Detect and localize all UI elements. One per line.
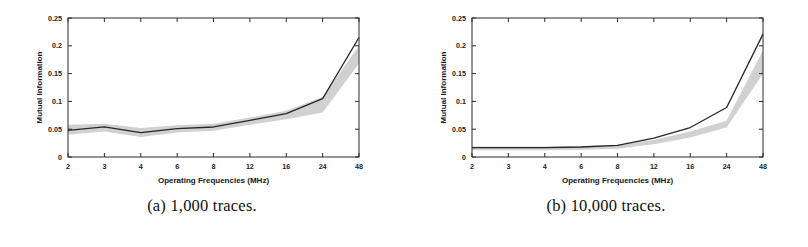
caption-a: (a) 1,000 traces. — [0, 196, 404, 216]
panel-a: 00.050.10.150.20.252346812162448Operatin… — [0, 0, 404, 247]
y-tick-label: 0.05 — [48, 125, 62, 134]
y-tick-label: 0 — [462, 153, 466, 162]
y-tick-label: 0.1 — [456, 97, 466, 106]
x-tick-label: 6 — [579, 162, 583, 171]
x-tick-label: 48 — [355, 162, 363, 171]
chart-a: 00.050.10.150.20.252346812162448Operatin… — [0, 0, 404, 195]
y-tick-label: 0.2 — [456, 41, 466, 50]
y-tick-label: 0.1 — [52, 97, 62, 106]
caption-b: (b) 10,000 traces. — [404, 196, 808, 216]
y-axis-title: Mutual Information — [439, 51, 448, 123]
x-tick-label: 16 — [282, 162, 290, 171]
y-tick-label: 0 — [58, 153, 62, 162]
chart-b-svg: 00.050.10.150.20.252346812162448Operatin… — [404, 0, 808, 195]
y-tick-label: 0.15 — [452, 69, 466, 78]
x-tick-label: 24 — [723, 162, 731, 171]
mean-line — [68, 37, 359, 132]
plot-frame — [68, 18, 359, 157]
chart-b: 00.050.10.150.20.252346812162448Operatin… — [404, 0, 808, 195]
x-tick-label: 8 — [616, 162, 620, 171]
x-tick-label: 2 — [66, 162, 70, 171]
y-axis-title: Mutual Information — [35, 51, 44, 123]
x-tick-label: 24 — [319, 162, 327, 171]
spread-band — [472, 50, 763, 150]
x-tick-label: 48 — [759, 162, 767, 171]
panel-b: 00.050.10.150.20.252346812162448Operatin… — [404, 0, 808, 247]
x-tick-label: 3 — [506, 162, 510, 171]
x-tick-label: 4 — [543, 162, 547, 171]
spread-band — [68, 46, 359, 137]
y-tick-label: 0.15 — [48, 69, 62, 78]
x-tick-label: 8 — [212, 162, 216, 171]
x-tick-label: 2 — [470, 162, 474, 171]
x-tick-label: 16 — [686, 162, 694, 171]
x-tick-label: 12 — [650, 162, 658, 171]
x-axis-title: Operating Frequencies (MHz) — [158, 176, 269, 185]
figure-two-panel: 00.050.10.150.20.252346812162448Operatin… — [0, 0, 808, 247]
y-tick-label: 0.25 — [452, 14, 466, 23]
x-tick-label: 4 — [139, 162, 143, 171]
x-tick-label: 3 — [102, 162, 106, 171]
y-tick-label: 0.25 — [48, 14, 62, 23]
chart-a-svg: 00.050.10.150.20.252346812162448Operatin… — [0, 0, 404, 195]
mean-line — [472, 34, 763, 147]
x-tick-label: 12 — [246, 162, 254, 171]
x-tick-label: 6 — [175, 162, 179, 171]
y-tick-label: 0.05 — [452, 125, 466, 134]
y-tick-label: 0.2 — [52, 41, 62, 50]
x-axis-title: Operating Frequencies (MHz) — [562, 176, 673, 185]
plot-frame — [472, 18, 763, 157]
